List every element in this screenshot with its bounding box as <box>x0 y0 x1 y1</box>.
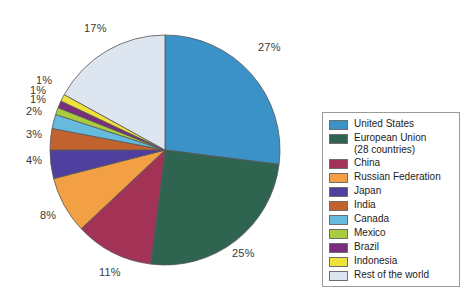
legend-item[interactable]: Canada <box>329 213 454 225</box>
chart-legend: United StatesEuropean Union(28 countries… <box>322 112 460 287</box>
legend-color-swatch <box>329 215 348 225</box>
legend-item[interactable]: India <box>329 199 454 211</box>
legend-item[interactable]: Russian Federation <box>329 171 454 183</box>
legend-color-swatch <box>329 271 348 281</box>
legend-color-swatch <box>329 229 348 239</box>
legend-item-label: Mexico <box>354 227 386 239</box>
legend-item[interactable]: Indonesia <box>329 255 454 267</box>
pie-slice-label: 11% <box>99 266 121 278</box>
legend-item-label: Indonesia <box>354 255 397 267</box>
pie-slice[interactable] <box>151 150 280 265</box>
legend-color-swatch <box>329 134 348 144</box>
legend-color-swatch <box>329 187 348 197</box>
legend-item[interactable]: United States <box>329 118 454 130</box>
legend-color-swatch <box>329 173 348 183</box>
pie-slice-label: 2% <box>26 105 42 117</box>
pie-chart-figure: 27%25%11%8%4%3%2%1%1%1%17% United States… <box>0 0 464 300</box>
legend-item-label: India <box>354 199 376 211</box>
pie-slice-label: 25% <box>232 247 255 259</box>
pie-slice[interactable] <box>165 35 280 164</box>
legend-item[interactable]: Mexico <box>329 227 454 239</box>
legend-item-label: China <box>354 157 380 169</box>
pie-slice-label: 4% <box>26 154 42 166</box>
legend-item-label: United States <box>354 118 414 130</box>
legend-item[interactable]: Rest of the world <box>329 269 454 281</box>
legend-item[interactable]: Japan <box>329 185 454 197</box>
legend-item-sublabel: (28 countries) <box>354 144 426 156</box>
legend-item-label: Canada <box>354 213 389 225</box>
legend-item-label: European Union(28 countries) <box>354 132 426 155</box>
legend-color-swatch <box>329 257 348 267</box>
legend-color-swatch <box>329 159 348 169</box>
pie-slice-label: 1% <box>36 74 52 86</box>
legend-color-swatch <box>329 201 348 211</box>
pie-slice-label: 3% <box>26 128 42 140</box>
legend-item-label: Russian Federation <box>354 171 441 183</box>
pie-slice-group <box>50 35 280 265</box>
legend-item-label: Brazil <box>354 241 379 253</box>
legend-item-label: Japan <box>354 185 381 197</box>
legend-item[interactable]: European Union(28 countries) <box>329 132 454 155</box>
pie-slice-label: 17% <box>84 22 107 34</box>
legend-color-swatch <box>329 243 348 253</box>
pie-slice-label: 8% <box>40 209 56 221</box>
pie-slice-label: 27% <box>258 41 281 53</box>
legend-item[interactable]: Brazil <box>329 241 454 253</box>
legend-item[interactable]: China <box>329 157 454 169</box>
legend-item-label: Rest of the world <box>354 269 429 281</box>
legend-color-swatch <box>329 120 348 130</box>
